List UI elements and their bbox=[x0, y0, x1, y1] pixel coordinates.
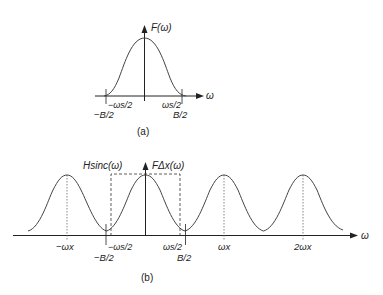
x-label: ω bbox=[206, 90, 214, 101]
x-axis-arrow-icon bbox=[350, 233, 358, 239]
periodic-spectrum-curve bbox=[28, 175, 343, 231]
x-label: ω bbox=[361, 230, 369, 241]
panel-a: F(ω) ω −ωs/2 −B/2 ωs/2 B/2 (a) bbox=[94, 22, 214, 137]
y-label: F(ω) bbox=[151, 22, 172, 33]
label-neg-wx: −ωx bbox=[56, 241, 75, 252]
label-neg-b2: −B/2 bbox=[94, 252, 115, 263]
label-pos-ws2: ωs/2 bbox=[163, 242, 182, 252]
spectrum-label: FΔx(ω) bbox=[152, 160, 184, 171]
y-axis-arrow-icon bbox=[143, 162, 149, 170]
label-pos-b2: B/2 bbox=[177, 252, 192, 263]
caption-a: (a) bbox=[137, 126, 149, 137]
label-2wx: 2ωx bbox=[293, 241, 313, 252]
panel-b: Hsinc(ω) FΔx(ω) ω −ωx −ωs/2 −B/2 ωs/2 B/… bbox=[13, 160, 369, 283]
label-neg-b2: −B/2 bbox=[94, 109, 115, 120]
label-neg-ws2: −ωs/2 bbox=[108, 242, 132, 252]
x-axis-arrow-icon bbox=[196, 93, 204, 99]
y-axis-arrow-icon bbox=[142, 25, 148, 33]
figure: F(ω) ω −ωs/2 −B/2 ωs/2 B/2 (a) Hsinc(ω) … bbox=[0, 0, 383, 295]
filter-label: Hsinc(ω) bbox=[83, 160, 122, 171]
label-wx: ωx bbox=[218, 241, 231, 252]
label-pos-b2: B/2 bbox=[173, 109, 188, 120]
caption-b: (b) bbox=[141, 272, 153, 283]
